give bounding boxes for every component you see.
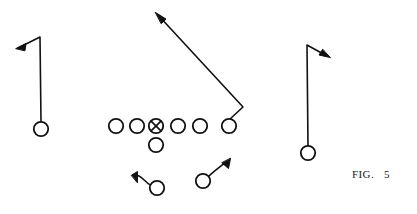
player-left-back[interactable] — [150, 181, 164, 195]
right-receiver-route-arrowhead — [319, 50, 330, 58]
player-right-back[interactable] — [196, 174, 210, 188]
player-right-wide-receiver[interactable] — [301, 146, 315, 160]
figure-label: FIG.5 — [352, 168, 390, 180]
right-back-route-arrowhead — [222, 159, 231, 169]
players-layer — [34, 119, 315, 195]
figure-label-prefix: FIG. — [352, 168, 374, 180]
right-back-route — [209, 163, 226, 177]
routes-layer — [16, 13, 330, 186]
player-lineman-5[interactable] — [193, 119, 207, 133]
tight-end-route — [158, 15, 243, 119]
football-play-diagram — [0, 0, 417, 214]
right-receiver-route — [307, 45, 327, 146]
left-receiver-route-arrowhead — [16, 44, 26, 51]
left-back-route — [136, 175, 151, 185]
player-lineman-2[interactable] — [130, 119, 144, 133]
figure-page: FIG.5 — [0, 0, 417, 214]
player-quarterback[interactable] — [149, 138, 163, 152]
player-lineman-1[interactable] — [109, 119, 123, 133]
player-tight-end[interactable] — [222, 119, 236, 133]
player-lineman-4[interactable] — [171, 119, 185, 133]
left-back-route-arrowhead — [132, 172, 138, 183]
figure-label-number: 5 — [384, 168, 390, 180]
player-left-wide-receiver[interactable] — [34, 122, 48, 136]
